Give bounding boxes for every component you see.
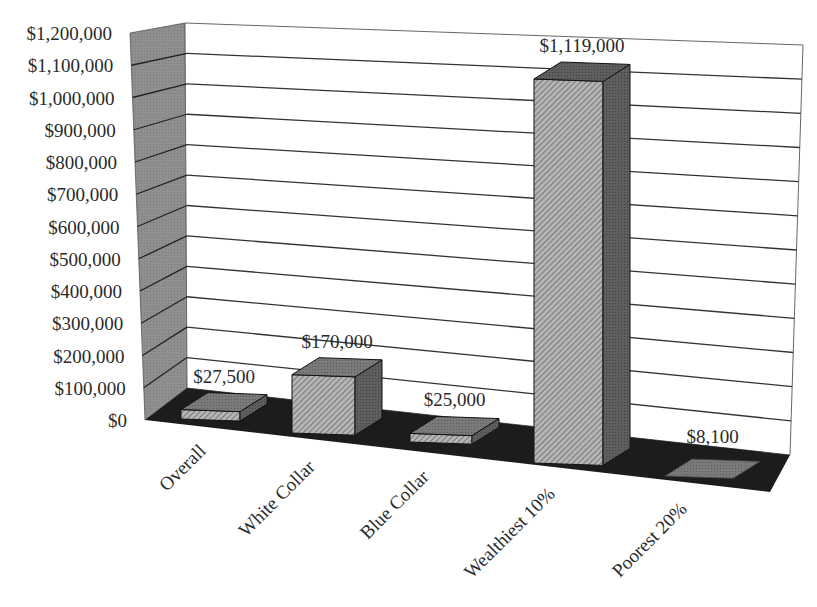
y-tick-label: $100,000 — [55, 378, 126, 399]
y-tick-label: $800,000 — [46, 152, 117, 173]
y-tick-label: $1,100,000 — [28, 55, 114, 76]
y-tick-label: $400,000 — [51, 281, 122, 302]
data-label: $8,100 — [686, 426, 738, 447]
y-tick-label: $500,000 — [50, 249, 121, 270]
y-tick-label: $200,000 — [53, 346, 124, 367]
y-tick-label: $1,200,000 — [27, 23, 113, 44]
bar-wealthiest-10- — [534, 62, 630, 465]
category-label: Wealthiest 10% — [460, 483, 559, 582]
side-wall — [130, 23, 187, 420]
bar-white-collar — [292, 358, 382, 436]
y-tick-label: $600,000 — [48, 217, 119, 238]
y-tick-label: $900,000 — [45, 120, 116, 141]
y-tick-label: $700,000 — [47, 184, 118, 205]
data-label: $170,000 — [301, 331, 372, 352]
y-tick-label: $0 — [108, 410, 127, 431]
category-label: Blue Collar — [356, 466, 434, 544]
data-label: $25,000 — [424, 389, 486, 410]
y-tick-label: $300,000 — [52, 313, 123, 334]
y-tick-label: $1,000,000 — [29, 88, 115, 109]
data-label: $27,500 — [193, 366, 255, 387]
data-label: $1,119,000 — [540, 35, 625, 56]
category-label: Overall — [155, 440, 210, 495]
y-axis-labels: $0$100,000$200,000$300,000$400,000$500,0… — [27, 23, 128, 431]
category-label: White Collar — [234, 456, 319, 541]
column-chart-3d: $0$100,000$200,000$300,000$400,000$500,0… — [0, 0, 817, 607]
category-label: Poorest 20% — [608, 498, 691, 581]
